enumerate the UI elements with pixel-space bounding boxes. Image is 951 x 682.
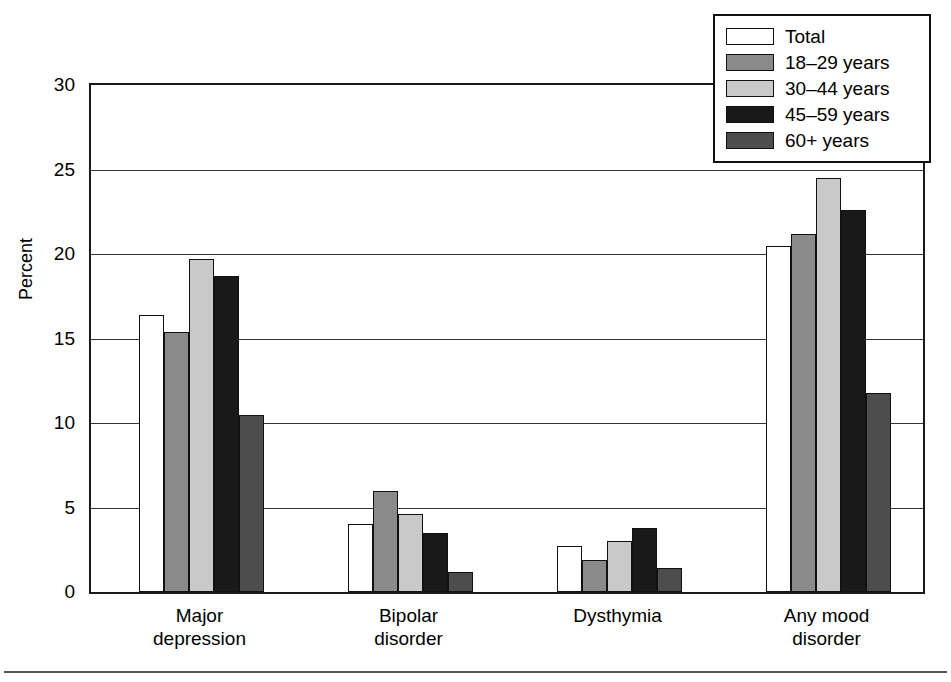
y-tick-label-15: 15 bbox=[54, 329, 75, 348]
legend-swatch-60-plus bbox=[726, 132, 774, 149]
x-axis-label-3: Any mooddisorder bbox=[717, 604, 937, 650]
bar bbox=[139, 315, 164, 592]
x-axis-label-line1: Bipolar bbox=[299, 604, 519, 627]
bar bbox=[816, 178, 841, 592]
y-tick-label-0: 0 bbox=[64, 582, 75, 601]
x-axis-label-1: Bipolardisorder bbox=[299, 604, 519, 650]
x-axis-label-line2: depression bbox=[90, 627, 310, 650]
bar bbox=[423, 533, 448, 592]
bar bbox=[373, 491, 398, 592]
y-tick-label-5: 5 bbox=[64, 498, 75, 517]
bar bbox=[582, 560, 607, 592]
y-tick-label-20: 20 bbox=[54, 244, 75, 263]
legend-swatch-total bbox=[726, 28, 774, 45]
bar bbox=[164, 332, 189, 592]
bar bbox=[557, 546, 582, 592]
bar bbox=[214, 276, 239, 592]
bar bbox=[657, 568, 682, 592]
bar bbox=[348, 524, 373, 592]
legend-item-45-59[interactable]: 45–59 years bbox=[726, 101, 920, 127]
figure-bar-chart: Percent 051015202530 MajordepressionBipo… bbox=[0, 0, 951, 682]
bar bbox=[866, 393, 891, 592]
legend-swatch-18-29 bbox=[726, 54, 774, 71]
x-axis-label-0: Majordepression bbox=[90, 604, 310, 650]
bar bbox=[398, 514, 423, 592]
x-axis-label-2: Dysthymia bbox=[508, 604, 728, 627]
legend-label-total: Total bbox=[785, 27, 825, 46]
y-tick-label-25: 25 bbox=[54, 160, 75, 179]
legend-label-45-59: 45–59 years bbox=[785, 105, 890, 124]
legend-label-30-44: 30–44 years bbox=[785, 79, 890, 98]
legend-label-60-plus: 60+ years bbox=[785, 131, 869, 150]
legend-item-total[interactable]: Total bbox=[726, 23, 920, 49]
legend-item-30-44[interactable]: 30–44 years bbox=[726, 75, 920, 101]
x-axis-label-line1: Any mood bbox=[717, 604, 937, 627]
bar bbox=[239, 415, 264, 592]
bar bbox=[189, 259, 214, 592]
x-axis-label-line1: Dysthymia bbox=[508, 604, 728, 627]
x-axis-label-line2: disorder bbox=[717, 627, 937, 650]
legend-swatch-45-59 bbox=[726, 106, 774, 123]
legend-item-60-plus[interactable]: 60+ years bbox=[726, 127, 920, 153]
y-axis-tick-labels: 051015202530 bbox=[0, 0, 89, 682]
bar bbox=[607, 541, 632, 592]
legend: Total 18–29 years 30–44 years 45–59 year… bbox=[713, 14, 931, 163]
bar bbox=[841, 210, 866, 592]
legend-label-18-29: 18–29 years bbox=[785, 53, 890, 72]
y-tick-label-10: 10 bbox=[54, 413, 75, 432]
x-axis-label-line2: disorder bbox=[299, 627, 519, 650]
bar bbox=[448, 572, 473, 592]
legend-swatch-30-44 bbox=[726, 80, 774, 97]
bottom-rule bbox=[4, 671, 947, 673]
bar bbox=[766, 246, 791, 592]
bar bbox=[632, 528, 657, 592]
gridline-25 bbox=[91, 170, 923, 171]
legend-item-18-29[interactable]: 18–29 years bbox=[726, 49, 920, 75]
y-tick-label-30: 30 bbox=[54, 75, 75, 94]
x-axis-label-line1: Major bbox=[90, 604, 310, 627]
bar bbox=[791, 234, 816, 592]
